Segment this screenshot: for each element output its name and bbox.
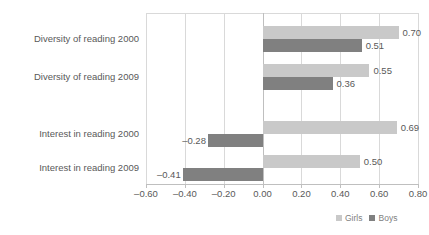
- bar-girls-0: [263, 26, 399, 39]
- legend-label: Boys: [378, 213, 397, 223]
- data-label: 0.36: [337, 77, 356, 90]
- legend-swatch-icon: [336, 215, 342, 221]
- category-label: Diversity of reading 2000: [8, 33, 139, 44]
- x-tick-label: 0.20: [281, 188, 321, 199]
- chart-legend: GirlsBoys: [336, 213, 397, 223]
- x-tick-label: 0.00: [243, 188, 283, 199]
- bar-boys-1: [263, 77, 333, 90]
- legend-item-girls[interactable]: Girls: [336, 213, 362, 223]
- data-label: 0.70: [403, 26, 422, 39]
- bar-boys-3: [183, 168, 263, 181]
- gridline--0.60: [146, 13, 147, 184]
- data-label: –0.28: [182, 134, 204, 147]
- gridline--0.20: [224, 13, 225, 184]
- x-tick-label: 0.80: [398, 188, 429, 199]
- bar-boys-0: [263, 39, 362, 52]
- x-tick-label: –0.40: [165, 188, 205, 199]
- data-label: 0.50: [364, 155, 383, 168]
- x-tick-label: –0.60: [126, 188, 166, 199]
- data-label: 0.51: [366, 39, 385, 52]
- bar-girls-3: [263, 155, 360, 168]
- data-label: –0.41: [157, 168, 179, 181]
- data-label: 0.69: [401, 121, 420, 134]
- bar-girls-2: [263, 121, 397, 134]
- category-label: Interest in reading 2000: [8, 128, 139, 139]
- x-tick-label: 0.40: [320, 188, 360, 199]
- legend-swatch-icon: [369, 215, 375, 221]
- x-tick-label: –0.20: [204, 188, 244, 199]
- legend-item-boys[interactable]: Boys: [369, 213, 397, 223]
- legend-label: Girls: [345, 213, 362, 223]
- bar-girls-1: [263, 64, 370, 77]
- category-label: Interest in reading 2009: [8, 162, 139, 173]
- x-axis-line: [146, 184, 418, 185]
- x-tick-label: 0.60: [359, 188, 399, 199]
- chart-container: Diversity of reading 2000Diversity of re…: [0, 0, 429, 235]
- data-label: 0.55: [373, 64, 392, 77]
- bar-boys-2: [208, 134, 262, 147]
- category-label: Diversity of reading 2009: [8, 71, 139, 82]
- gridline--0.40: [185, 13, 186, 184]
